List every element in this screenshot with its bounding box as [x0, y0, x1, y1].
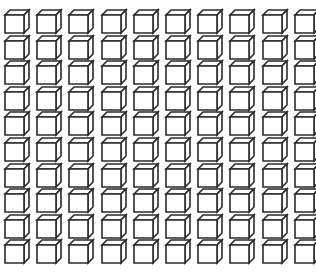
cube-icon	[69, 87, 93, 110]
cube-front-face	[263, 66, 282, 84]
cube-front-face	[69, 143, 88, 161]
cube-front-face	[5, 143, 24, 161]
cube-icon	[263, 36, 287, 59]
cube-icon	[37, 36, 61, 59]
cube-front-face	[295, 41, 314, 59]
cube-front-face	[134, 92, 153, 110]
cube-front-face	[198, 92, 217, 110]
cube-front-face	[37, 194, 56, 212]
cube-front-face	[166, 169, 185, 187]
cube-icon	[230, 189, 254, 212]
cube-icon	[37, 87, 61, 110]
cube-front-face	[134, 117, 153, 135]
cube-icon	[102, 138, 126, 161]
cube-icon	[5, 164, 29, 187]
cube-front-face	[295, 245, 314, 263]
cube-front-face	[263, 245, 282, 263]
cube-icon	[295, 240, 316, 263]
cube-icon	[5, 215, 29, 238]
cube-icon	[5, 138, 29, 161]
cube-front-face	[134, 220, 153, 238]
cube-icon	[37, 112, 61, 135]
cube-icon	[37, 215, 61, 238]
cube-front-face	[166, 66, 185, 84]
cube-front-face	[134, 143, 153, 161]
cube-front-face	[198, 117, 217, 135]
cube-front-face	[102, 245, 121, 263]
cube-icon	[5, 240, 29, 263]
cube-icon	[263, 240, 287, 263]
cube-front-face	[69, 245, 88, 263]
cube-icon	[134, 61, 158, 84]
cube-icon	[134, 189, 158, 212]
cube-front-face	[5, 66, 24, 84]
cube-icon	[69, 189, 93, 212]
cube-front-face	[5, 194, 24, 212]
cube-front-face	[263, 194, 282, 212]
cube-front-face	[134, 169, 153, 187]
cube-icon	[102, 87, 126, 110]
cube-icon	[69, 61, 93, 84]
cube-icon	[69, 240, 93, 263]
cube-icon	[102, 10, 126, 33]
cube-icon	[295, 215, 316, 238]
cube-front-face	[102, 194, 121, 212]
cube-front-face	[295, 117, 314, 135]
cube-front-face	[5, 92, 24, 110]
cube-icon	[102, 215, 126, 238]
cube-front-face	[37, 66, 56, 84]
cube-icon	[5, 112, 29, 135]
cube-front-face	[69, 66, 88, 84]
cube-front-face	[134, 194, 153, 212]
cube-icon	[263, 138, 287, 161]
cube-icon	[198, 215, 222, 238]
cube-front-face	[102, 41, 121, 59]
cube-icon	[198, 164, 222, 187]
cube-icon	[69, 112, 93, 135]
cube-icon	[69, 36, 93, 59]
cube-icon	[134, 36, 158, 59]
cube-icon	[37, 61, 61, 84]
cube-icon	[198, 36, 222, 59]
cube-icon	[5, 61, 29, 84]
cube-front-face	[134, 245, 153, 263]
cube-icon	[263, 87, 287, 110]
cube-front-face	[230, 117, 249, 135]
cube-front-face	[69, 15, 88, 33]
cube-front-face	[263, 41, 282, 59]
cube-front-face	[134, 41, 153, 59]
cube-icon	[37, 189, 61, 212]
cube-front-face	[5, 15, 24, 33]
cube-front-face	[295, 15, 314, 33]
cube-front-face	[102, 143, 121, 161]
cube-icon	[37, 240, 61, 263]
cube-icon	[5, 36, 29, 59]
cube-front-face	[166, 220, 185, 238]
cube-front-face	[37, 245, 56, 263]
cube-grid	[0, 0, 316, 274]
cube-icon	[37, 10, 61, 33]
cube-icon	[198, 61, 222, 84]
cube-icon	[134, 87, 158, 110]
cube-front-face	[263, 92, 282, 110]
cube-icon	[69, 10, 93, 33]
cube-icon	[295, 138, 316, 161]
cube-front-face	[230, 220, 249, 238]
cube-icon	[166, 138, 190, 161]
cube-icon	[230, 36, 254, 59]
cube-front-face	[37, 41, 56, 59]
cube-icon	[166, 164, 190, 187]
cube-icon	[230, 10, 254, 33]
cube-front-face	[37, 143, 56, 161]
cube-icon	[166, 10, 190, 33]
cube-front-face	[295, 92, 314, 110]
cube-icon	[166, 36, 190, 59]
cube-icon	[198, 10, 222, 33]
cube-front-face	[102, 15, 121, 33]
cube-icon	[198, 112, 222, 135]
cube-icon	[295, 112, 316, 135]
cube-icon	[263, 112, 287, 135]
cube-icon	[134, 138, 158, 161]
cube-front-face	[69, 169, 88, 187]
cube-front-face	[5, 245, 24, 263]
